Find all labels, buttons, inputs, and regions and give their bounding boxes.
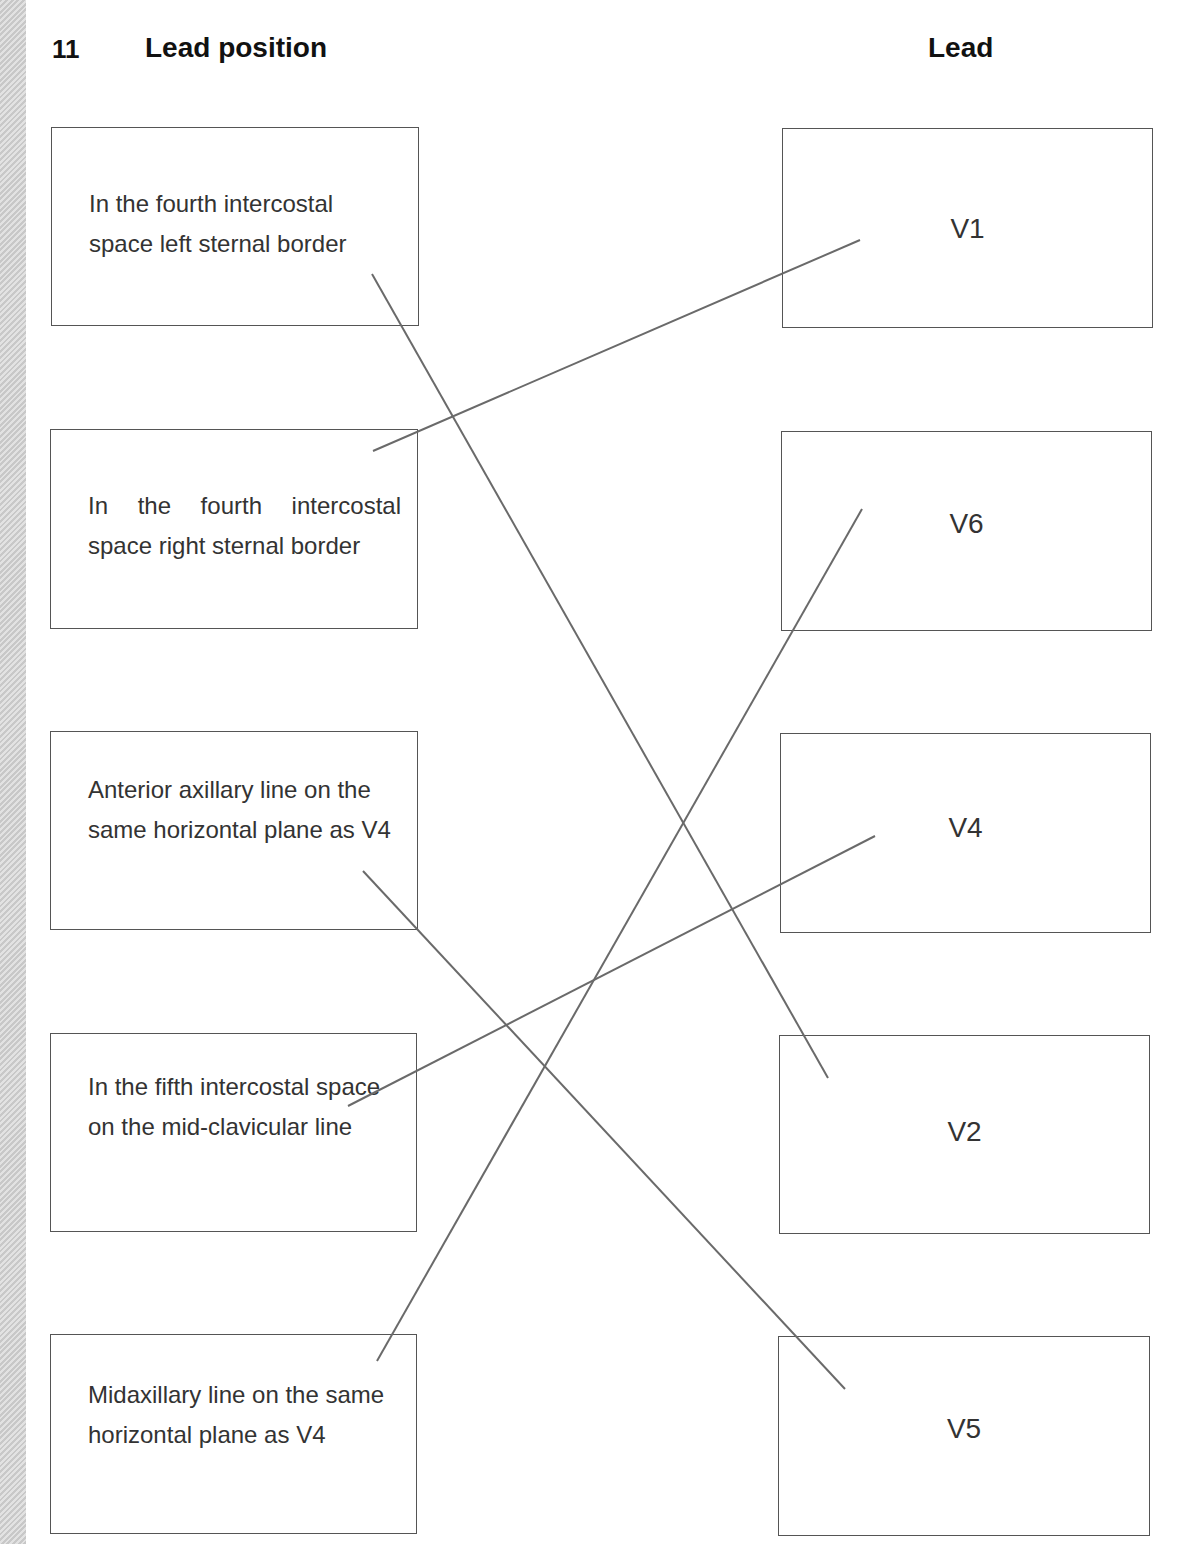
- connection-line: [363, 871, 845, 1389]
- connection-lines: [0, 0, 1177, 1544]
- connection-line: [373, 240, 860, 451]
- connection-line: [372, 274, 828, 1078]
- connection-line: [348, 836, 875, 1106]
- connection-line: [377, 509, 862, 1361]
